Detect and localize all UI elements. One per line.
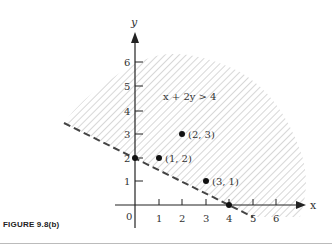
x-tick-label: 6 [273,213,279,224]
point-label: (1, 2) [165,153,192,164]
y-axis-arrow-icon [131,32,139,43]
divider [0,243,332,244]
x-tick-label: 4 [226,213,232,224]
point-0-2 [132,155,138,161]
y-axis-label: y [130,16,138,29]
x-tick-label: 2 [179,213,185,224]
point-2-3 [179,131,185,137]
inequality-label: x + 2y > 4 [163,91,217,102]
x-tick-label: 3 [203,213,209,224]
point-1-2 [156,155,162,161]
y-tick-label: 5 [124,81,130,92]
x-tick-label: 5 [250,213,256,224]
y-tick-label: 1 [124,176,130,187]
origin-label: 0 [126,211,132,222]
y-tick-label: 3 [124,129,130,140]
point-label: (2, 3) [188,129,215,140]
point-label: (3, 1) [212,176,239,187]
x-tick-label: 1 [156,213,162,224]
inequality-graph: 0 1 2 3 4 5 6 1 2 3 4 5 6 x y x + 2y > 4… [0,0,332,249]
point-4-0 [226,202,232,208]
y-tick-label: 4 [124,106,130,117]
y-tick-label: 6 [124,57,130,68]
figure-caption: FIGURE 9.8(b) [3,220,59,229]
point-3-1 [203,178,209,184]
y-tick-label: 2 [124,153,130,164]
x-axis-label: x [310,199,317,212]
shaded-region [0,0,332,249]
